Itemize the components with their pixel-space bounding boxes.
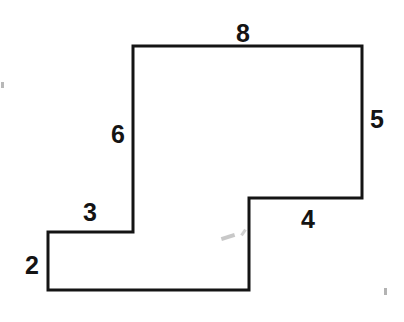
scan-speck-edge [1,82,4,88]
edge-label-step-top: 3 [83,200,97,225]
edge-label-mid-vertical: 6 [111,122,125,147]
geometry-figure: 8 5 4 6 3 2 [0,0,404,322]
scan-speck-right [384,288,387,295]
edge-label-left: 2 [25,253,39,278]
polygon-svg [0,0,404,322]
edge-label-top: 8 [236,21,250,46]
edge-label-notch-bottom: 4 [301,207,315,232]
edge-label-right: 5 [370,107,384,132]
